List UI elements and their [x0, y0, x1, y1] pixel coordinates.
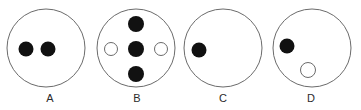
- dot-d-hollow-icon: [301, 63, 316, 78]
- dot-circles-figure: ABCD: [0, 0, 361, 110]
- dot-d-filled-icon: [280, 39, 295, 54]
- panel-d: D: [0, 0, 361, 110]
- panel-label-d: D: [0, 93, 361, 104]
